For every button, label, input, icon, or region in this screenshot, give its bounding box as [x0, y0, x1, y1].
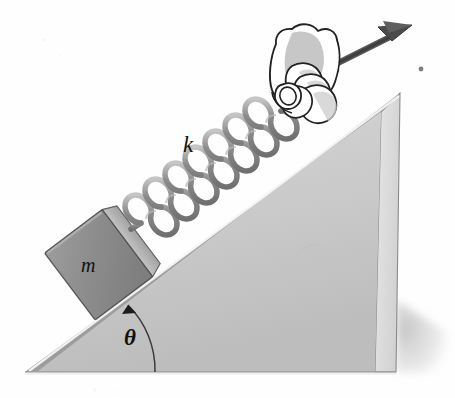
mass-label: m	[81, 254, 95, 277]
figure-canvas	[0, 0, 455, 398]
ground-shadow	[396, 300, 452, 372]
stray-dot-icon	[419, 67, 424, 72]
spring-constant-label: k	[183, 132, 193, 158]
physics-figure: k m θ	[0, 0, 455, 398]
angle-label: θ	[124, 325, 136, 351]
